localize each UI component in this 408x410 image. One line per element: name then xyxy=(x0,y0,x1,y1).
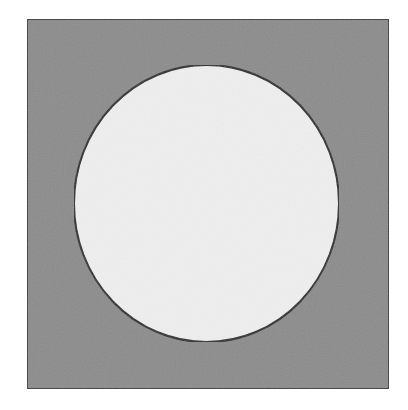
figure-canvas xyxy=(0,0,408,410)
white-circle xyxy=(74,65,339,342)
